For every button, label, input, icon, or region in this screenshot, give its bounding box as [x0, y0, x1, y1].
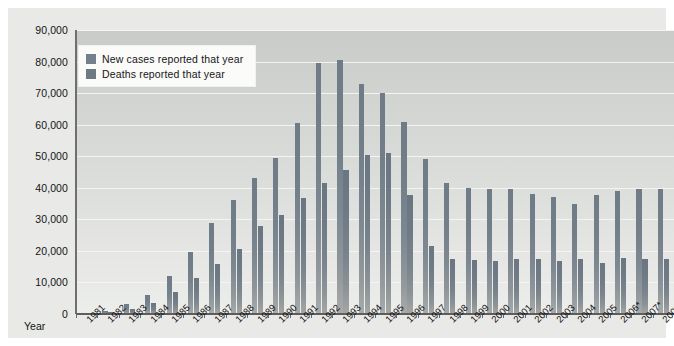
bar-new-cases-1993: [337, 60, 342, 314]
bar-new-cases-1990: [273, 158, 278, 314]
bar-new-cases-1988: [231, 200, 236, 314]
y-axis-tick-label: 30,000: [35, 213, 68, 225]
bar-new-cases-2004: [572, 204, 577, 314]
bar-new-cases-2003: [551, 197, 556, 314]
gridline: [76, 30, 674, 31]
bar-deaths-1991: [301, 198, 306, 314]
chart-legend: New cases reported that year Deaths repo…: [78, 45, 256, 87]
chart-figure: 010,00020,00030,00040,00050,00060,00070,…: [0, 0, 674, 346]
bar-deaths-1997: [429, 246, 434, 314]
gridline: [76, 251, 674, 252]
bar-deaths-1995: [386, 153, 391, 314]
y-axis-tick-labels: 010,00020,00030,00040,00050,00060,00070,…: [8, 30, 72, 314]
bar-new-cases-2001: [508, 189, 513, 314]
bar-deaths-2006: [621, 258, 626, 314]
legend-label-deaths: Deaths reported that year: [102, 68, 225, 80]
bar-new-cases-2007: [636, 189, 641, 314]
y-axis-tick-label: 0: [62, 308, 68, 320]
chart-panel: 010,00020,00030,00040,00050,00060,00070,…: [8, 8, 666, 338]
bar-deaths-2003: [557, 261, 562, 314]
bar-deaths-1990: [279, 215, 284, 314]
bar-new-cases-2005: [594, 195, 599, 314]
bar-new-cases-1992: [316, 63, 321, 314]
y-axis-tick-label: 80,000: [35, 56, 68, 68]
legend-swatch-icon-new-cases: [86, 54, 96, 64]
bar-deaths-1998: [450, 259, 455, 314]
bar-deaths-2005: [600, 263, 605, 314]
bar-deaths-2001: [514, 259, 519, 314]
bar-new-cases-1986: [188, 252, 193, 314]
y-axis-line: [75, 30, 77, 314]
bar-deaths-1994: [365, 155, 370, 314]
legend-item-deaths: Deaths reported that year: [86, 66, 243, 81]
bar-deaths-1999: [472, 260, 477, 314]
bar-new-cases-1989: [252, 178, 257, 314]
bar-deaths-1987: [215, 264, 220, 314]
y-axis-tick-label: 70,000: [35, 87, 68, 99]
bar-new-cases-1996: [401, 122, 406, 314]
legend-item-new-cases: New cases reported that year: [86, 51, 243, 66]
gridline: [76, 125, 674, 126]
bar-new-cases-1994: [359, 84, 364, 314]
bar-new-cases-2002: [530, 194, 535, 314]
y-axis-tick-label: 20,000: [35, 245, 68, 257]
bar-deaths-2000: [493, 261, 498, 314]
bar-deaths-1996: [407, 195, 412, 314]
x-axis-tick-labels: 1981198219831984198519861987198819891990…: [76, 317, 674, 346]
x-axis-caption: Year: [24, 320, 45, 332]
legend-swatch-icon-deaths: [86, 69, 96, 79]
bar-new-cases-2000: [487, 189, 492, 314]
y-axis-tick-label: 90,000: [35, 24, 68, 36]
bar-deaths-1988: [237, 249, 242, 314]
bar-new-cases-2006: [615, 191, 620, 314]
bar-new-cases-1991: [295, 123, 300, 314]
bar-deaths-1992: [322, 183, 327, 314]
bar-new-cases-1999: [466, 188, 471, 314]
bar-new-cases-2008: [658, 189, 663, 314]
y-axis-tick-label: 60,000: [35, 119, 68, 131]
gridline: [76, 156, 674, 157]
gridline: [76, 93, 674, 94]
gridline: [76, 219, 674, 220]
legend-label-new-cases: New cases reported that year: [102, 53, 243, 65]
bar-new-cases-1997: [423, 159, 428, 314]
y-axis-tick-label: 40,000: [35, 182, 68, 194]
bar-deaths-2004: [578, 259, 583, 314]
bar-new-cases-1987: [209, 223, 214, 315]
bar-deaths-2002: [536, 259, 541, 314]
bar-new-cases-1995: [380, 93, 385, 314]
y-axis-tick-label: 50,000: [35, 150, 68, 162]
bar-deaths-1993: [343, 170, 348, 314]
bar-deaths-1989: [258, 226, 263, 314]
y-axis-tick-label: 10,000: [35, 276, 68, 288]
bar-new-cases-1998: [444, 183, 449, 314]
gridline: [76, 188, 674, 189]
